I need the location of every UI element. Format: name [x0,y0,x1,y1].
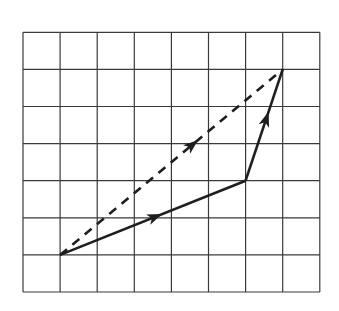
vector-diagram [0,0,339,311]
